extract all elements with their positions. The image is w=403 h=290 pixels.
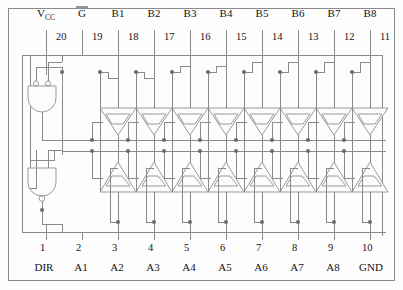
b-to-a-enable-and-gate: [28, 62, 62, 140]
bottom-pin-10: 10: [362, 242, 373, 253]
top-pin-16: 16: [200, 31, 211, 42]
bottom-pin-4: 4: [148, 242, 154, 253]
bottom-signal-a6: A6: [254, 261, 268, 273]
top-signal-labels: VCC G B1 B2 B3 B4 B5 B6 B7 B8: [37, 7, 377, 22]
top-signal-b3: B3: [184, 7, 197, 19]
bottom-signal-a3: A3: [146, 261, 160, 273]
top-signal-b4: B4: [220, 7, 233, 19]
a-output-tristate-buffer: [344, 151, 388, 236]
top-pin-18: 18: [128, 31, 139, 42]
b-output-tristate-buffer: [92, 78, 136, 168]
bottom-pin-8: 8: [292, 242, 297, 253]
g-bar-text: G: [78, 7, 86, 19]
schematic-canvas: VCC G B1 B2 B3 B4 B5 B6 B7 B8 20 19 18 1…: [0, 0, 403, 290]
bottom-pin-2: 2: [76, 242, 81, 253]
top-signal-b1: B1: [112, 7, 125, 19]
bottom-signal-a7: A7: [290, 261, 304, 273]
bottom-pin-7: 7: [256, 242, 261, 253]
b-output-tristate-buffer: [128, 78, 172, 168]
bottom-pin-6: 6: [220, 242, 225, 253]
top-signal-vcc: VCC: [37, 7, 55, 22]
bottom-signal-a1: A1: [74, 261, 87, 273]
bottom-signal-gnd: GND: [359, 261, 383, 273]
b-output-tristate-buffer: [344, 62, 388, 168]
bottom-signal-a8: A8: [326, 261, 340, 273]
top-signal-b2: B2: [148, 7, 161, 19]
top-pin-19: 19: [92, 31, 103, 42]
bottom-pin-1: 1: [40, 242, 45, 253]
left-rails: [22, 55, 82, 232]
top-pin-20: 20: [56, 31, 67, 42]
top-pin-13: 13: [308, 31, 319, 42]
bottom-pin-numbers: 1 2 3 4 5 6 7 8 9 10: [40, 242, 373, 253]
top-pin-14: 14: [272, 31, 283, 42]
a-output-tristate-buffer: [92, 151, 136, 232]
a-to-b-enable-and-gate: [28, 150, 62, 232]
logic-diagram-svg: VCC G B1 B2 B3 B4 B5 B6 B7 B8 20 19 18 1…: [0, 0, 403, 290]
top-pin-numbers: 20 19 18 17 16 15 14 13 12 11: [56, 31, 390, 42]
bottom-pin-5: 5: [184, 242, 189, 253]
bottom-signal-a5: A5: [218, 261, 232, 273]
bottom-pin-9: 9: [328, 242, 333, 253]
bottom-pin-stubs: [22, 232, 386, 240]
bottom-pin-3: 3: [112, 242, 117, 253]
top-signal-b5: B5: [256, 7, 269, 19]
control-feed-wires: [30, 55, 100, 232]
bottom-signal-a4: A4: [182, 261, 196, 273]
top-control-rail: [30, 55, 382, 236]
top-pin-11: 11: [380, 31, 390, 42]
b-output-tristate-buffer: [200, 66, 244, 168]
top-signal-b7: B7: [328, 7, 341, 19]
top-signal-b8: B8: [364, 7, 377, 19]
top-pin-17: 17: [164, 31, 175, 42]
lower-control-bus: [62, 151, 386, 155]
bottom-signal-a2: A2: [110, 261, 123, 273]
top-signal-b6: B6: [292, 7, 305, 19]
bottom-signal-labels: DIR A1 A2 A3 A4 A5 A6 A7 A8 GND: [35, 261, 383, 273]
top-pin-15: 15: [236, 31, 247, 42]
b-output-tristate-buffer: [164, 66, 208, 168]
junction-dots: [40, 70, 372, 224]
diagram-border: [9, 9, 395, 281]
bottom-signal-dir: DIR: [35, 261, 55, 273]
top-pin-12: 12: [344, 31, 355, 42]
